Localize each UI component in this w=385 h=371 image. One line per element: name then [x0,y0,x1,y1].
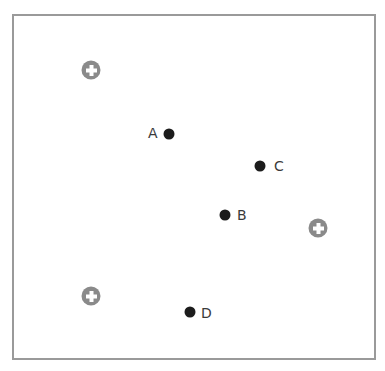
point-a[interactable] [164,129,175,140]
point-label-c: C [274,159,284,173]
point-label-b: B [237,208,247,222]
plus-circle-icon[interactable] [82,287,101,306]
plus-circle-icon[interactable] [309,219,328,238]
diagram-canvas: A B C D [0,0,385,371]
point-d[interactable] [185,307,196,318]
plus-circle-icon[interactable] [82,61,101,80]
point-label-a: A [148,126,158,140]
point-label-d: D [201,306,212,320]
point-b[interactable] [220,210,231,221]
point-c[interactable] [255,161,266,172]
